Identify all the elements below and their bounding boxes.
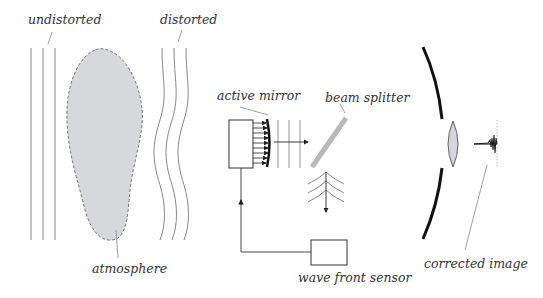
lens (448, 121, 458, 167)
telescope-mirror (423, 47, 442, 239)
atmosphere (67, 49, 142, 240)
distorted-leader (178, 30, 182, 42)
wavefront-sensor-label: wave front sensor (298, 270, 413, 285)
undistorted-wavefronts (31, 48, 55, 240)
undistorted-leader (48, 32, 52, 44)
adaptive-optics-diagram: undistorted atmosphere distorted active … (0, 0, 543, 298)
atmosphere-label: atmosphere (92, 261, 167, 276)
corrected-image-leader (465, 165, 487, 250)
actuator-box (229, 120, 253, 168)
feedback-loop (241, 168, 311, 252)
actuator-arrows (253, 123, 268, 163)
corrected-image-label: corrected image (424, 256, 528, 271)
active-mirror-label: active mirror (217, 88, 301, 103)
active-mirror-leader (240, 107, 268, 115)
distorted-wavefronts (154, 48, 189, 240)
wavefront-sensor (311, 240, 347, 265)
distorted-label: distorted (160, 12, 217, 27)
undistorted-label: undistorted (28, 12, 101, 27)
beam-splitter-label: beam splitter (325, 90, 411, 105)
corrected-wavefronts (278, 120, 300, 168)
beam-splitter (312, 118, 346, 167)
beam-splitter-leader (340, 104, 345, 113)
